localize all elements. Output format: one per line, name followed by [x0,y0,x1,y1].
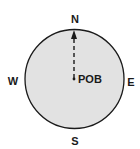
origin-point [73,78,76,81]
label-south: S [71,135,78,147]
label-north: N [71,13,79,25]
label-center-pob: POB [78,73,102,85]
compass-diagram: N S W E POB [0,0,140,149]
label-west: W [8,75,19,87]
label-east: E [127,76,134,88]
